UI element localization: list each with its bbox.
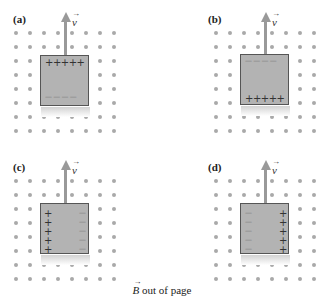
caption-text: out of page [139, 284, 191, 296]
field-dot [228, 193, 232, 197]
velocity-arrow-icon [261, 160, 271, 170]
field-dot [84, 179, 88, 183]
field-dot [242, 277, 246, 281]
field-dot [228, 101, 232, 105]
field-dot [70, 277, 74, 281]
field-dot [228, 249, 232, 253]
field-dot [84, 31, 88, 35]
velocity-label: →v [72, 16, 77, 28]
field-dot [70, 179, 74, 183]
field-dot [312, 101, 316, 105]
field-dot [284, 179, 288, 183]
field-dot [14, 59, 18, 63]
field-dot [298, 73, 302, 77]
field-dot [28, 193, 32, 197]
field-dot [42, 277, 46, 281]
field-dot [228, 59, 232, 63]
field-dot [112, 31, 116, 35]
field-dot [42, 45, 46, 49]
field-dot [56, 179, 60, 183]
field-dot [242, 31, 246, 35]
field-dot [112, 73, 116, 77]
field-dot [298, 115, 302, 119]
field-dot [242, 179, 246, 183]
field-dot [28, 59, 32, 63]
panel-a: (a) +++++ — — — — →v [0, 0, 130, 140]
minus-charges-left: — — — — — [245, 209, 252, 254]
field-dot [214, 235, 218, 239]
velocity-arrow-shaft [64, 20, 67, 55]
box-shadow [41, 255, 90, 265]
field-dot [14, 115, 18, 119]
field-dot [112, 193, 116, 197]
velocity-label: →v [272, 16, 277, 28]
field-dot [70, 31, 74, 35]
field-dot [28, 179, 32, 183]
field-dot [56, 45, 60, 49]
field-dot [284, 193, 288, 197]
field-dot [42, 193, 46, 197]
field-dot [112, 179, 116, 183]
field-dot [214, 207, 218, 211]
field-dot [14, 249, 18, 253]
field-dot [256, 179, 260, 183]
field-dot [228, 73, 232, 77]
field-dot [112, 45, 116, 49]
box-shadow [41, 107, 90, 117]
velocity-label: →v [272, 164, 277, 176]
field-dot [214, 115, 218, 119]
velocity-label: →v [72, 164, 77, 176]
field-dot [298, 129, 302, 133]
field-dot [256, 129, 260, 133]
field-dot [242, 193, 246, 197]
field-dot [228, 179, 232, 183]
field-dot [28, 101, 32, 105]
plus-charges-top: +++++ [45, 58, 84, 68]
field-dot [112, 59, 116, 63]
field-dot [14, 129, 18, 133]
field-dot [228, 115, 232, 119]
velocity-arrow-shaft [264, 20, 267, 54]
field-dot [214, 249, 218, 253]
field-dot [214, 45, 218, 49]
field-dot [84, 129, 88, 133]
velocity-arrow-icon [61, 160, 71, 170]
velocity-arrow-shaft [64, 168, 67, 203]
panel-b: (b) — — — — +++++ →v [200, 0, 324, 140]
field-dot [98, 207, 102, 211]
field-dot [28, 249, 32, 253]
panel-label-d: (d) [208, 161, 221, 173]
field-dot [312, 73, 316, 77]
field-dot [298, 207, 302, 211]
field-dot [228, 277, 232, 281]
velocity-arrow-icon [261, 12, 271, 22]
field-dot [14, 277, 18, 281]
field-dot [28, 235, 32, 239]
field-dot [270, 179, 274, 183]
panel-label-c: (c) [13, 161, 25, 173]
field-dot [228, 221, 232, 225]
field-dot [228, 263, 232, 267]
field-dot [298, 221, 302, 225]
field-dot [214, 87, 218, 91]
panel-c: (c) + + + + + — — — — — →v [0, 148, 130, 288]
field-dot [14, 87, 18, 91]
field-dot [214, 277, 218, 281]
field-dot [28, 87, 32, 91]
field-dot [98, 115, 102, 119]
field-dot [98, 101, 102, 105]
field-dot [42, 31, 46, 35]
panel-label-a: (a) [13, 13, 26, 25]
panel-d: (d) — — — — — + + + + + →v [200, 148, 324, 288]
field-dot [98, 59, 102, 63]
field-dot [256, 31, 260, 35]
field-dot [284, 45, 288, 49]
field-dot [312, 263, 316, 267]
field-dot [98, 87, 102, 91]
field-dot [14, 193, 18, 197]
field-dot [112, 249, 116, 253]
field-dot [112, 207, 116, 211]
field-dot [298, 101, 302, 105]
field-dot [312, 235, 316, 239]
field-dot [214, 101, 218, 105]
